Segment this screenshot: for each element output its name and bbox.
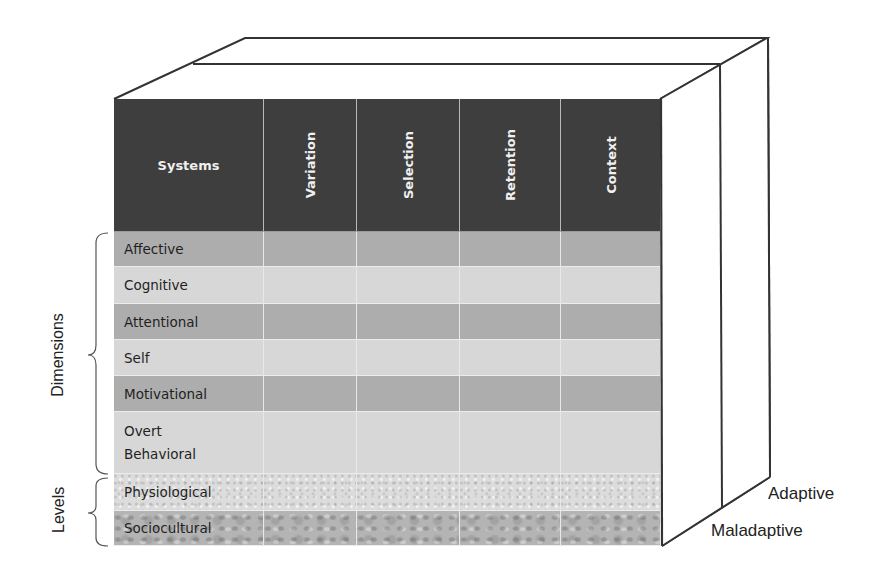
header-context-label: Context [603, 136, 618, 193]
row-label-cell: Overt Behavioral [114, 412, 264, 474]
cell-context [561, 474, 660, 511]
row-label-cell: Sociocultural [114, 511, 264, 546]
cell-context [561, 304, 660, 340]
cell-retention [460, 474, 561, 511]
row-affective: Affective [114, 232, 660, 267]
row-label-cell: Affective [114, 232, 264, 267]
row-label: Self [124, 346, 149, 369]
cell-variation [264, 412, 357, 474]
row-physiological: Physiological [114, 474, 660, 511]
cell-context [561, 340, 660, 376]
row-cognitive: Cognitive [114, 267, 660, 304]
header-cell-variation: Variation [264, 99, 357, 232]
row-label: Physiological [124, 481, 212, 504]
row-self: Self [114, 340, 660, 376]
row-label-cell: Self [114, 340, 264, 376]
cell-retention [460, 376, 561, 412]
row-label: Cognitive [124, 274, 188, 297]
row-label: Motivational [124, 382, 207, 405]
cell-selection [357, 340, 460, 376]
front-face-table: Systems Variation Selection Retention Co… [114, 99, 660, 546]
cell-selection [357, 267, 460, 304]
cell-context [561, 232, 660, 267]
back-layer-top-edge [114, 38, 767, 99]
cell-selection [357, 232, 460, 267]
cell-context [561, 376, 660, 412]
cell-variation [264, 376, 357, 412]
row-label-cell: Motivational [114, 376, 264, 412]
cube-right-face [660, 38, 770, 546]
dimensions-brace [88, 233, 108, 474]
cell-variation [264, 232, 357, 267]
maladaptive-layer-label: Maladaptive [711, 521, 803, 541]
row-sociocultural: Sociocultural [114, 511, 660, 546]
evolutionary-systems-cube-diagram: Systems Variation Selection Retention Co… [0, 0, 893, 583]
cell-context [561, 267, 660, 304]
row-motivational: Motivational [114, 376, 660, 412]
cell-retention [460, 412, 561, 474]
row-label: Attentional [124, 310, 198, 333]
header-retention-label: Retention [503, 129, 518, 201]
header-cell-context: Context [561, 99, 660, 232]
cell-variation [264, 474, 357, 511]
cell-selection [357, 511, 460, 546]
cell-context [561, 511, 660, 546]
cell-variation [264, 511, 357, 546]
header-cell-selection: Selection [357, 99, 460, 232]
cell-selection [357, 376, 460, 412]
levels-brace [88, 478, 108, 546]
row-label: Overt Behavioral [124, 420, 224, 466]
cell-context [561, 412, 660, 474]
cell-retention [460, 232, 561, 267]
adaptive-layer-label: Adaptive [768, 484, 834, 504]
cell-selection [357, 304, 460, 340]
row-attentional: Attentional [114, 304, 660, 340]
row-label-cell: Physiological [114, 474, 264, 511]
row-label: Affective [124, 238, 184, 261]
header-variation-label: Variation [303, 132, 318, 199]
row-label-cell: Cognitive [114, 267, 264, 304]
cell-variation [264, 267, 357, 304]
cell-retention [460, 511, 561, 546]
levels-group-label: Levels [50, 493, 70, 533]
header-selection-label: Selection [401, 131, 416, 199]
row-label-cell: Attentional [114, 304, 264, 340]
cell-variation [264, 340, 357, 376]
dimensions-group-label: Dimensions [49, 310, 69, 400]
row-overt-behavioral: Overt Behavioral [114, 412, 660, 474]
cell-selection [357, 412, 460, 474]
cell-retention [460, 267, 561, 304]
cell-variation [264, 304, 357, 340]
front-face-right-edge [661, 99, 662, 546]
cell-retention [460, 340, 561, 376]
cell-retention [460, 304, 561, 340]
cell-selection [357, 474, 460, 511]
header-cell-retention: Retention [460, 99, 561, 232]
header-systems-label: Systems [114, 158, 263, 173]
header-cell-systems: Systems [114, 99, 264, 232]
row-label: Sociocultural [124, 517, 211, 540]
header-row: Systems Variation Selection Retention Co… [114, 99, 660, 232]
